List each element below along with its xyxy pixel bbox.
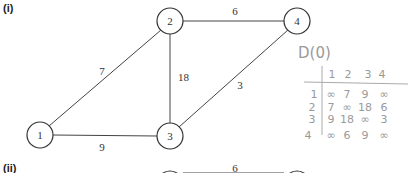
edge-2-3-weight: 18 xyxy=(178,71,190,83)
matrix-cell: 18 xyxy=(339,113,355,126)
row-header: 1 xyxy=(306,88,322,101)
row-header: 3 xyxy=(304,113,320,126)
col-header: 4 xyxy=(374,68,390,81)
node-ii-2 xyxy=(157,171,183,173)
edge-3-4 xyxy=(179,30,288,127)
matrix-cell: 7 xyxy=(339,88,355,101)
node-3-label: 3 xyxy=(167,130,173,142)
node-ii-4 xyxy=(284,171,310,173)
distance-matrix: 1 2 3 4 1 ∞ 7 9 ∞ 2 7 ∞ 18 6 3 9 18 ∞ 3 … xyxy=(310,60,408,145)
matrix-cell: 9 xyxy=(357,129,373,142)
row-header: 4 xyxy=(300,129,316,142)
node-4-label: 4 xyxy=(294,15,300,27)
edge-ii-weight: 6 xyxy=(232,162,238,173)
matrix-cell: 9 xyxy=(357,88,373,101)
matrix-cell: ∞ xyxy=(376,88,392,101)
matrix-cell: ∞ xyxy=(323,129,339,142)
edge-1-3-weight: 9 xyxy=(99,141,105,153)
edge-2-4-weight: 6 xyxy=(232,5,238,17)
matrix-cell: ∞ xyxy=(376,129,392,142)
edge-1-3 xyxy=(53,135,157,136)
matrix-cell: ∞ xyxy=(357,113,373,126)
col-header: 2 xyxy=(340,68,356,81)
graph-edges xyxy=(49,21,288,173)
col-header: 1 xyxy=(324,68,340,81)
node-2-label: 2 xyxy=(167,15,173,27)
matrix-cell: 9 xyxy=(323,113,339,126)
node-1-label: 1 xyxy=(37,129,43,141)
matrix-cell: 6 xyxy=(339,129,355,142)
edge-3-4-weight: 3 xyxy=(237,79,243,91)
matrix-cell: 3 xyxy=(376,113,392,126)
matrix-cell: ∞ xyxy=(323,88,339,101)
edge-1-2 xyxy=(49,30,161,126)
edge-1-2-weight: 7 xyxy=(99,65,105,77)
